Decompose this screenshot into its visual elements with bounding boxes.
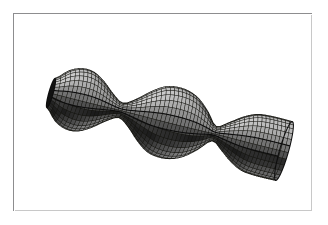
figure-page: Shaded quadrilateral-mesh rendering of a… — [0, 0, 328, 225]
figure-frame: Shaded quadrilateral-mesh rendering of a… — [13, 13, 312, 211]
surface-3d-render — [14, 14, 313, 212]
